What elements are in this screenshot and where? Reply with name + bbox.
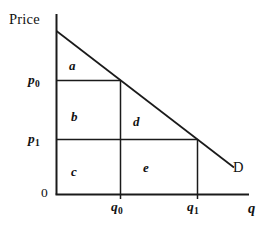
x-tick-label-q0: q0 [111,200,123,214]
y-tick-p0-subscript: 0 [35,79,40,89]
region-label-e: e [143,161,149,174]
region-label-b: b [71,110,78,123]
x-tick-q0-subscript: 0 [118,206,123,216]
demand-curve-diagram: Price q 0 D p0 p1 q0 q1 a b c d e [0,0,272,230]
region-label-d: d [133,115,140,128]
demand-curve-line [57,31,235,168]
x-axis-title: q [248,201,255,216]
x-tick-label-q1: q1 [187,200,199,214]
y-tick-label-p1: p1 [28,132,40,146]
y-axis-title: Price [9,12,40,27]
demand-curve-label: D [233,160,243,175]
x-tick-q1-base: q [187,199,194,214]
origin-label: 0 [41,186,48,200]
region-label-a: a [69,59,76,72]
x-tick-q1-subscript: 1 [194,206,199,216]
y-tick-label-p0: p0 [28,73,40,87]
x-tick-q0-base: q [111,199,118,214]
y-tick-p1-subscript: 1 [35,138,40,148]
y-tick-p0-base: p [28,72,35,87]
y-tick-p1-base: p [28,131,35,146]
region-label-c: c [71,165,77,178]
